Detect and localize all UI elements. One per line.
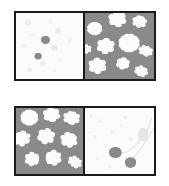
panel-top-left bbox=[16, 13, 85, 79]
top-left-texture bbox=[16, 13, 83, 79]
panel-top-right bbox=[85, 13, 154, 79]
image-pair-top bbox=[14, 11, 156, 81]
bottom-right-texture bbox=[85, 108, 154, 174]
image-pair-bottom bbox=[14, 106, 156, 176]
top-right-texture bbox=[85, 13, 154, 79]
pattern-comparison-figure bbox=[0, 0, 169, 186]
bottom-left-texture bbox=[16, 108, 83, 174]
panel-bottom-left bbox=[16, 108, 85, 174]
panel-bottom-right bbox=[85, 108, 154, 174]
